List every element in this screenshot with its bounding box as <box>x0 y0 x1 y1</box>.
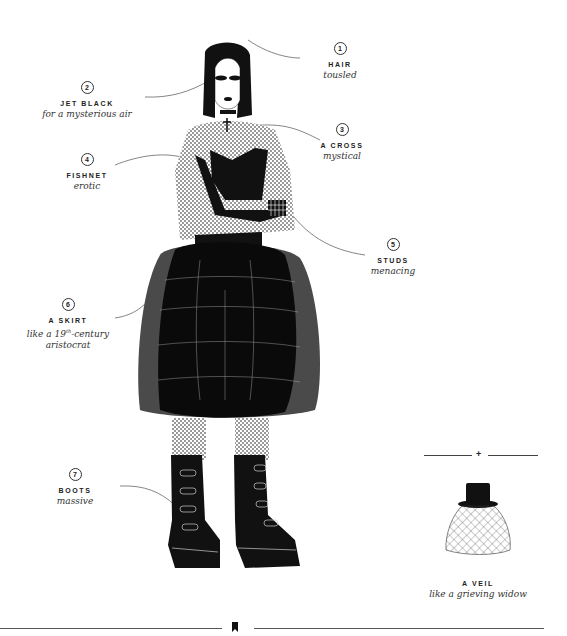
face <box>215 58 240 109</box>
annotation-cross: 3 A CROSS mystical <box>267 117 417 162</box>
number-badge: 3 <box>336 123 349 136</box>
annotation-subtitle: mystical <box>267 151 417 162</box>
annotation-title: FISHNET <box>12 172 162 179</box>
annotation-title: STUDS <box>318 257 468 264</box>
number-badge: 5 <box>387 238 400 251</box>
veil-divider-left <box>424 455 472 456</box>
annotation-subtitle: erotic <box>12 181 162 192</box>
annotation-title: JET BLACK <box>12 100 162 107</box>
annotation-jet-black: 2 JET BLACK for a mysterious air <box>12 75 162 120</box>
number-badge: 6 <box>62 298 75 311</box>
skirt <box>158 242 296 417</box>
boots <box>168 455 300 568</box>
annotation-subtitle: tousled <box>265 70 415 81</box>
annotation-hair: 1 HAIR tousled <box>265 36 415 81</box>
annotation-subtitle: for a mysterious air <box>12 109 162 120</box>
annotation-title: HAIR <box>265 61 415 68</box>
number-badge: 1 <box>334 42 347 55</box>
veil-divider-right <box>488 455 538 456</box>
annotation-boots: 7 BOOTS massive <box>0 462 150 507</box>
annotation-fishnet: 4 FISHNET erotic <box>12 147 162 192</box>
annotation-subtitle: like a grieving widow <box>403 589 553 600</box>
footer-divider-left <box>0 628 222 629</box>
annotation-subtitle: like a 19th-centuryaristocrat <box>0 326 143 351</box>
plus-icon: + <box>476 449 481 459</box>
number-badge: 4 <box>81 153 94 166</box>
number-badge: 7 <box>69 468 82 481</box>
annotation-subtitle: menacing <box>318 266 468 277</box>
annotation-title: A VEIL <box>403 580 553 587</box>
veil-hat-illustration <box>446 483 510 555</box>
annotation-studs: 5 STUDS menacing <box>318 232 468 277</box>
number-badge: 2 <box>81 81 94 94</box>
annotation-title: BOOTS <box>0 487 150 494</box>
annotation-veil: A VEIL like a grieving widow <box>403 574 553 600</box>
annotation-title: A SKIRT <box>0 317 143 324</box>
annotation-skirt: 6 A SKIRT like a 19th-centuryaristocrat <box>0 292 143 351</box>
annotation-title: A CROSS <box>267 142 417 149</box>
annotation-subtitle: massive <box>0 496 150 507</box>
footer-divider-right <box>254 628 544 629</box>
